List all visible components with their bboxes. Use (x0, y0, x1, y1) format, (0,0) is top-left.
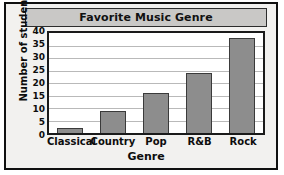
y-tick-label: 25 (18, 65, 45, 75)
x-axis-tick-labels: Classical Country Pop R&B Rock (47, 136, 265, 147)
y-axis-tick-labels: 0 5 10 15 20 25 30 35 40 (18, 31, 45, 135)
bar-rock (229, 38, 255, 133)
x-axis-title: Genre (25, 150, 267, 163)
x-tick-label-country: Country (91, 136, 135, 147)
bar-slot (92, 33, 135, 133)
y-tick-label: 0 (18, 130, 45, 140)
y-tick-label: 5 (18, 117, 45, 127)
y-tick-label: 30 (18, 52, 45, 62)
chart-figure: Favorite Music Genre Number of students … (4, 2, 278, 170)
bar-slot (135, 33, 178, 133)
x-tick-label-classical: Classical (47, 136, 91, 147)
bar-country (100, 111, 126, 134)
y-tick-label: 35 (18, 39, 45, 49)
chart-title: Favorite Music Genre (79, 11, 212, 24)
bar-slot (177, 33, 220, 133)
y-tick-label: 40 (18, 26, 45, 36)
y-tick-label: 20 (18, 78, 45, 88)
bar-classical (57, 128, 83, 133)
y-tick-label: 15 (18, 91, 45, 101)
bar-slot (220, 33, 263, 133)
y-tick-label: 10 (18, 104, 45, 114)
bar-rnb (186, 73, 212, 133)
bar-series (49, 33, 263, 133)
x-tick-label-rnb: R&B (178, 136, 222, 147)
x-tick-label-rock: Rock (221, 136, 265, 147)
plot-area (47, 31, 265, 135)
chart-title-bar: Favorite Music Genre (25, 8, 267, 27)
bar-pop (143, 93, 169, 133)
bar-slot (49, 33, 92, 133)
x-tick-label-pop: Pop (134, 136, 178, 147)
